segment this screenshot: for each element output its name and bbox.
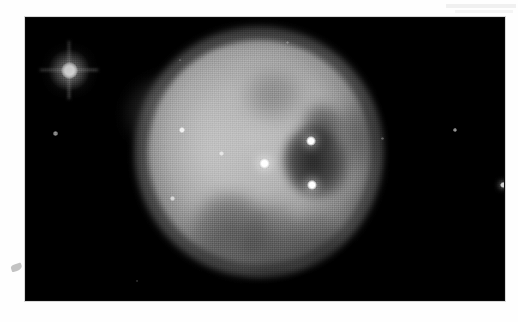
scanner-streak-2-icon (455, 10, 513, 13)
astronomical-photograph-plate (26, 18, 504, 300)
scanner-streak-icon (446, 4, 516, 8)
edge-smudge-icon (10, 262, 23, 272)
paper-page: Grayscale astronomical photograph of a l… (0, 0, 518, 322)
plate-vignette (26, 18, 504, 300)
